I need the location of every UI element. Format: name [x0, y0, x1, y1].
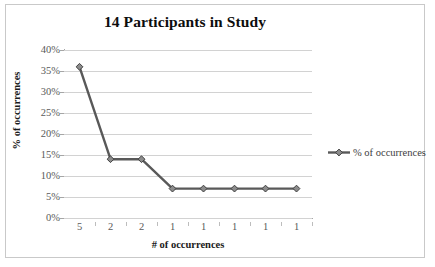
y-axis-tick-label: 20% — [26, 129, 60, 140]
y-axis-tick-label: 30% — [26, 87, 60, 98]
legend-line-marker-icon — [327, 147, 351, 158]
chart-legend: % of occurrences — [327, 147, 426, 158]
data-point-marker — [200, 185, 207, 192]
y-axis-tick-mark — [60, 218, 64, 219]
y-axis-tick-label: 0% — [26, 213, 60, 224]
x-axis-tick-label: 1 — [189, 222, 219, 233]
data-point-marker — [293, 185, 300, 192]
x-axis-tick-label: 2 — [96, 222, 126, 233]
legend-entry-label: % of occurrences — [353, 147, 426, 158]
data-point-marker — [76, 63, 83, 70]
y-axis-tick-label: 35% — [26, 66, 60, 77]
x-axis-tick-label: 2 — [127, 222, 157, 233]
y-axis-tick-label: 15% — [26, 150, 60, 161]
x-axis-tick-labels: 52211111 — [64, 222, 312, 236]
chart-title: 14 Participants in Study — [40, 13, 330, 31]
data-point-marker — [262, 185, 269, 192]
chart-figure: 14 Participants in Study 0%5%10%15%20%25… — [0, 0, 435, 267]
gridline — [64, 218, 312, 219]
x-axis-tick-label: 1 — [220, 222, 250, 233]
series-line-chart — [64, 50, 312, 218]
legend-diamond-marker — [336, 149, 343, 156]
x-axis-tick-mark — [312, 222, 313, 226]
y-axis-tick-labels: 0%5%10%15%20%25%30%35%40% — [22, 50, 60, 218]
y-axis-tick-label: 25% — [26, 108, 60, 119]
data-point-marker — [231, 185, 238, 192]
x-axis-tick-label: 1 — [282, 222, 312, 233]
plot-area — [64, 50, 312, 218]
data-point-marker — [107, 156, 114, 163]
y-axis-tick-label: 10% — [26, 171, 60, 182]
x-axis-tick-label: 5 — [65, 222, 95, 233]
x-axis-tick-label: 1 — [158, 222, 188, 233]
y-axis-tick-label: 40% — [26, 45, 60, 56]
y-axis-title: % of occurrences — [11, 51, 22, 171]
series-line — [80, 67, 297, 189]
x-axis-tick-label: 1 — [251, 222, 281, 233]
x-axis-title: # of occurrences — [64, 239, 312, 250]
y-axis-tick-label: 5% — [26, 192, 60, 203]
